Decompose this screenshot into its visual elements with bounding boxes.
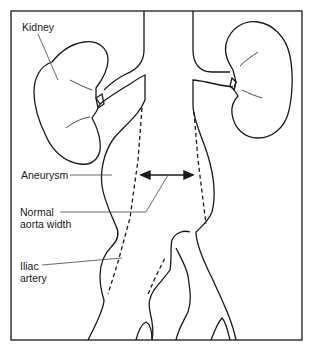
- iliac-leader: [42, 258, 122, 265]
- right-kidney: [225, 22, 292, 138]
- normal-aorta-outline: [108, 108, 206, 294]
- left-kidney: [34, 42, 108, 165]
- normal-width-leader: [60, 175, 168, 212]
- iliac-artery-label-line2: artery: [20, 272, 47, 284]
- leader-lines: [38, 34, 168, 265]
- kidney-leader: [38, 34, 58, 80]
- iliac-artery-label-line1: Iliac: [20, 260, 39, 272]
- width-arrow: [141, 171, 193, 179]
- aneurysm-label: Aneurysm: [21, 169, 68, 181]
- normal-aorta-width-label-line1: Normal: [20, 206, 54, 218]
- kidney-label: Kidney: [22, 21, 54, 33]
- normal-aorta-width-label-line2: aorta width: [20, 218, 71, 230]
